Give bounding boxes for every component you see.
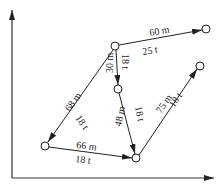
node-F — [132, 154, 140, 162]
edge-E-F: 66 m 18 t — [49, 139, 132, 166]
edge-A-B: 60 m 25 t — [119, 24, 202, 57]
edge-label-load: 18 t — [167, 90, 185, 109]
edge-A-E: 68 m 18 t — [48, 50, 113, 142]
edge-label-load: 18 t — [73, 113, 91, 132]
node-B — [202, 25, 210, 33]
node-E — [41, 142, 49, 150]
edge-label-load: 18 t — [75, 153, 92, 166]
edge-label-distance: 68 m — [63, 90, 84, 113]
edge-label-distance: 66 m — [76, 139, 98, 152]
edge-A-C: 30 m 18 t — [104, 50, 131, 85]
edge-label-load: 25 t — [141, 43, 158, 57]
edge-label-load: 18 t — [133, 105, 147, 122]
node-A — [111, 42, 119, 50]
edge-label-distance: 48 m — [112, 105, 127, 127]
edge-label-load: 18 t — [120, 54, 131, 70]
edge-C-F: 48 m 18 t — [112, 93, 147, 154]
node-D — [196, 62, 204, 70]
node-C — [114, 85, 122, 93]
edge-F-D: 75 m 18 t — [139, 69, 197, 155]
flow-diagram: 60 m 25 t 30 m 18 t 68 m 18 t 48 m 18 t … — [0, 0, 220, 188]
